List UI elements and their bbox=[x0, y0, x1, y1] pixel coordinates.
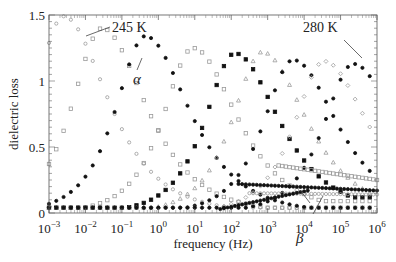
x-tick-label: 101 bbox=[186, 219, 204, 236]
annotation-alpha: α bbox=[133, 58, 142, 87]
y-tick-label: 1 bbox=[39, 74, 46, 89]
annotation-alpha-label: α bbox=[133, 71, 142, 87]
data-points bbox=[47, 15, 379, 211]
dielectric-loss-chart: 10−310−210−110010110210310410510600.511.… bbox=[0, 0, 396, 262]
x-axis-label: frequency (Hz) bbox=[173, 236, 252, 251]
annotation-beta-label: β bbox=[295, 230, 304, 246]
annotation-245k-label: 245 K bbox=[112, 20, 147, 35]
x-tick-label: 105 bbox=[332, 219, 350, 236]
x-tick-label: 102 bbox=[222, 219, 240, 236]
annotation-280k-label: 280 K bbox=[303, 20, 338, 35]
annotation-245k: 245 K bbox=[86, 20, 147, 36]
x-tick-label: 100 bbox=[150, 219, 168, 236]
x-tick-label: 10−1 bbox=[111, 219, 134, 236]
y-tick-label: 0 bbox=[39, 206, 46, 221]
x-tick-label: 106 bbox=[368, 219, 386, 236]
y-tick-label: 1.5 bbox=[29, 8, 45, 23]
x-tick-label: 103 bbox=[259, 219, 277, 236]
y-tick-label: 0.5 bbox=[29, 140, 45, 155]
axes: 10−310−210−110010110210310410510600.511.… bbox=[29, 8, 387, 236]
x-tick-label: 10−2 bbox=[74, 219, 97, 236]
annotation-280k: 280 K bbox=[303, 20, 362, 58]
y-axis-label: dielectric loss bbox=[6, 78, 21, 150]
x-tick-label: 10−3 bbox=[38, 219, 61, 236]
